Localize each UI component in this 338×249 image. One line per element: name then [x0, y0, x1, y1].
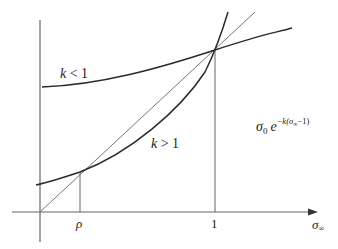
curve-k-greater-1: [36, 12, 228, 185]
diagram-canvas: k < 1 k > 1 σ0e−k(σ∞−1) ρ 1 σ∞: [0, 0, 338, 249]
tick-label-one: 1: [211, 216, 218, 231]
formula-label: σ0e−k(σ∞−1): [256, 116, 309, 136]
x-axis-arrow-icon: [308, 209, 318, 216]
x-axis-label: σ∞: [312, 217, 324, 233]
label-k-less-1: k < 1: [60, 66, 88, 81]
identity-line: [40, 12, 255, 212]
tick-label-rho: ρ: [75, 216, 82, 231]
label-k-greater-1: k > 1: [151, 136, 179, 151]
